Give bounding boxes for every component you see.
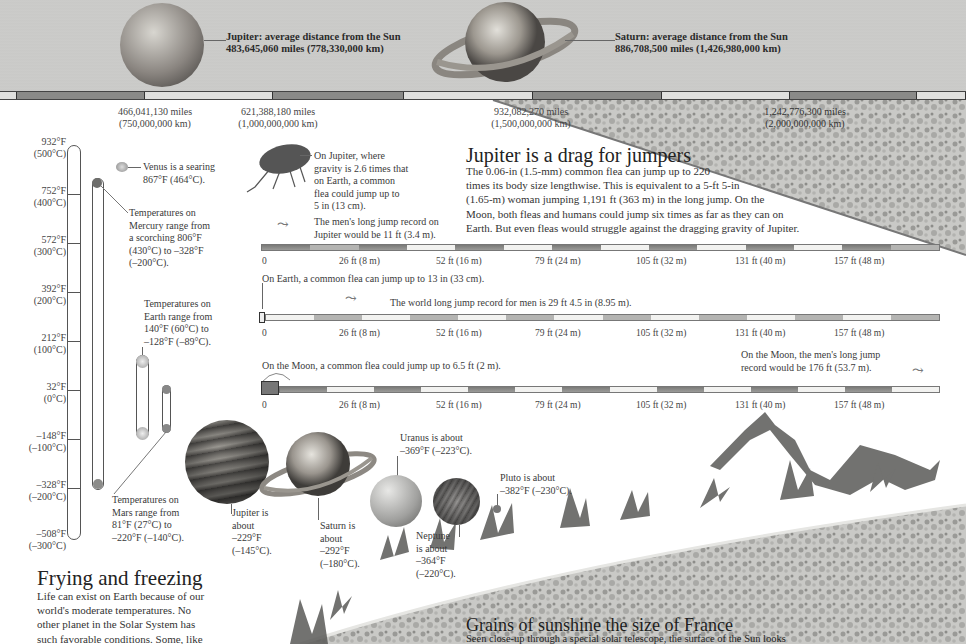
mars-icon-top bbox=[162, 385, 171, 394]
distance-km: (1,500,000,000 km) bbox=[466, 118, 596, 130]
distance-km: (2,000,000,000 km) bbox=[740, 118, 870, 130]
uranus-leader-line bbox=[397, 456, 398, 476]
distance-miles: 1,242,776,300 miles bbox=[740, 106, 870, 118]
distance-marker-2000m-km: 1,242,776,300 miles (2,000,000,000 km) bbox=[740, 106, 870, 130]
distance-miles: 466,041,130 miles bbox=[90, 106, 220, 118]
thermometer-tick bbox=[67, 243, 81, 244]
jupiter-jump-scale bbox=[261, 244, 940, 251]
thermometer-tick bbox=[67, 194, 81, 195]
distance-miles: 932,082,270 miles bbox=[466, 106, 596, 118]
saturn-distance-label: Saturn: average distance from the Sun 88… bbox=[615, 31, 895, 55]
earth-jump-scale bbox=[265, 314, 940, 321]
pluto-temp-note: Pluto is about–382°F (–230°C). bbox=[500, 472, 572, 497]
distance-marker-750m-km: 466,041,130 miles (750,000,000 km) bbox=[90, 106, 220, 130]
frying-freezing-body: Life can exist on Earth because of ourwo… bbox=[37, 589, 204, 644]
temp-label-minus100c: –148°F(–100°C) bbox=[10, 430, 66, 454]
temp-label-300c: 572°F(300°C) bbox=[10, 234, 66, 258]
frying-freezing-heading: Frying and freezing bbox=[37, 566, 203, 590]
man-moon-note: On the Moon, the men's long jumprecord w… bbox=[741, 349, 880, 374]
thermometer-scale bbox=[67, 145, 81, 540]
earth-note: Temperatures onEarth range from140°F (60… bbox=[144, 298, 212, 348]
saturn-image-top bbox=[425, 0, 585, 90]
thermometer-tick bbox=[67, 292, 81, 293]
pluto-image bbox=[493, 505, 501, 513]
temp-label-minus300c: –508°F(–300°C) bbox=[10, 528, 66, 552]
saturn-leader-line bbox=[565, 40, 615, 41]
flea-jupiter-note: On Jupiter, wheregravity is 2.6 times th… bbox=[314, 150, 408, 213]
jupiter-leader-line bbox=[204, 40, 226, 41]
man-jupiter-note: The men's long jump record onJupiter wou… bbox=[314, 216, 439, 241]
jumper-icon-moon: ⤳ bbox=[912, 362, 942, 380]
distance-miles: 621,388,180 miles bbox=[213, 106, 343, 118]
neptune-leader-line bbox=[459, 525, 460, 537]
jumper-icon-jupiter: ⤳ bbox=[277, 216, 307, 232]
neptune-image bbox=[433, 478, 480, 525]
saturn-leader-line bbox=[318, 498, 319, 520]
temp-label-400c: 752°F(400°C) bbox=[10, 185, 66, 209]
earth-icon-top bbox=[136, 355, 149, 368]
flea-illustration bbox=[245, 137, 320, 197]
sunshine-body: Seen close-up through a special solar te… bbox=[466, 632, 786, 644]
jupiter-scale-ticks: 026 ft (8 m)52 ft (16 m)79 ft (24 m)105 … bbox=[0, 256, 966, 268]
thermometer-tick bbox=[67, 390, 81, 391]
mars-leader-line bbox=[110, 430, 170, 500]
distance-km: (750,000,000 km) bbox=[90, 118, 220, 130]
venus-icon bbox=[116, 162, 128, 172]
jumper-icon-earth: ⤳ bbox=[345, 290, 375, 306]
flea-leader-line bbox=[300, 155, 312, 156]
distance-marker-1500m-km: 932,082,270 miles (1,500,000,000 km) bbox=[466, 106, 596, 130]
saturn-temp-note: Saturn isabout–292°F(–180°C). bbox=[320, 520, 360, 570]
thermometer-tick bbox=[67, 341, 81, 342]
thermometer-tick bbox=[67, 439, 81, 440]
jupiter-image-top bbox=[120, 3, 204, 87]
moon-jump-marker bbox=[261, 381, 279, 395]
earth-scale-ticks: 026 ft (8 m)52 ft (16 m)79 ft (24 m)105 … bbox=[0, 328, 966, 340]
distance-km: (1,000,000,000 km) bbox=[213, 118, 343, 130]
uranus-image bbox=[370, 475, 422, 527]
saturn-distance-value: 886,708,500 miles (1,426,980,000 km) bbox=[615, 43, 895, 55]
mars-note: Temperatures onMars range from81°F (27°C… bbox=[112, 494, 184, 544]
temp-label-200c: 392°F(200°C) bbox=[10, 283, 66, 307]
venus-leader-line bbox=[128, 167, 141, 168]
neptune-temp-note: Neptuneis about–364°F(–220°C). bbox=[416, 530, 456, 580]
flea-earth-leader bbox=[262, 283, 263, 309]
man-earth-note: The world long jump record for men is 29… bbox=[390, 297, 632, 310]
jupiter-image bbox=[185, 420, 269, 504]
temp-label-minus200c: –328°F(–200°C) bbox=[10, 479, 66, 503]
moon-scale-ticks: 026 ft (8 m)52 ft (16 m)79 ft (24 m)105 … bbox=[0, 400, 966, 412]
venus-note: Venus is a searing867°F (464°C). bbox=[143, 161, 215, 186]
temp-label-500c: 932°F(500°C) bbox=[10, 136, 66, 160]
uranus-temp-note: Uranus is about–369°F (–223°C). bbox=[400, 432, 472, 457]
jumpers-body: The 0.06-in (1.5-mm) common flea can jum… bbox=[466, 164, 799, 235]
saturn-distance-title: Saturn: average distance from the Sun bbox=[615, 31, 895, 43]
mercury-icon-bottom bbox=[93, 479, 103, 489]
distance-scale-bar bbox=[0, 91, 966, 100]
jupiter-temp-note: Jupiter isabout–229°F(–145°C). bbox=[232, 507, 272, 557]
distance-marker-1000m-km: 621,388,180 miles (1,000,000,000 km) bbox=[213, 106, 343, 130]
moon-jump-scale bbox=[279, 386, 940, 393]
flea-earth-note: On Earth, a common flea can jump up to 1… bbox=[262, 273, 484, 286]
thermometer-tick bbox=[67, 488, 81, 489]
